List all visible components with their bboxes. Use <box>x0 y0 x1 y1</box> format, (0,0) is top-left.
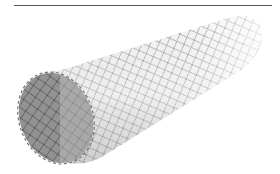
stent-photo <box>0 0 280 174</box>
